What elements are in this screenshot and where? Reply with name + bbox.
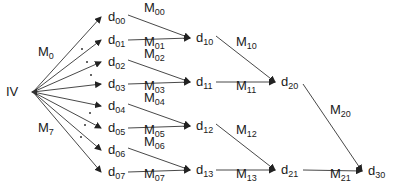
edge-label-m06: M06 — [144, 135, 165, 151]
ellipsis-dot — [89, 112, 91, 114]
node-d00: d00 — [108, 10, 125, 26]
node-d07: d07 — [108, 165, 125, 181]
edge-label-m06-base: M — [144, 134, 155, 149]
node-d11: d11 — [196, 75, 213, 91]
node-d20: d20 — [281, 75, 298, 91]
ellipsis-dot — [81, 48, 83, 50]
node-d12: d12 — [196, 119, 213, 135]
node-d13: d13 — [196, 163, 213, 179]
edge-label-m0-base: M — [38, 44, 49, 59]
edge-label-m02-subscript: 02 — [155, 53, 165, 63]
tree-diagram: IVd00d01d02d03d04d05d06d07d10d11d12d13d2… — [0, 0, 398, 194]
edge-label-m10: M10 — [236, 35, 257, 51]
edge-label-m06-subscript: 06 — [155, 141, 165, 151]
node-d30: d30 — [368, 164, 385, 180]
node-d02: d02 — [108, 55, 125, 71]
edge-label-m11-subscript: 11 — [247, 85, 256, 95]
edge-label-m04-base: M — [144, 90, 155, 105]
node-d21-subscript: 21 — [288, 169, 298, 179]
node-d04: d04 — [108, 99, 125, 115]
edge-label-m21-base: M — [330, 166, 341, 181]
ellipsis-dot — [90, 74, 92, 76]
node-d10-subscript: 10 — [203, 37, 213, 47]
edge-label-m13-subscript: 13 — [247, 173, 257, 183]
edge-label-m11-base: M — [236, 78, 247, 93]
node-d03: d03 — [108, 77, 125, 93]
edge-label-m20-base: M — [330, 102, 341, 117]
edge-label-m00-base: M — [144, 0, 155, 15]
edge-label-m10-base: M — [236, 34, 247, 49]
node-d21: d21 — [281, 163, 298, 179]
edge-label-m11: M11 — [236, 79, 256, 95]
ellipsis-dot — [80, 136, 82, 138]
edge-label-m00: M00 — [144, 1, 165, 17]
source-node-iv: IV — [6, 85, 18, 98]
edge-label-m07-subscript: 07 — [155, 173, 165, 183]
ellipsis-dot — [86, 61, 88, 63]
node-d06: d06 — [108, 143, 125, 159]
edge-label-m20-subscript: 20 — [341, 109, 351, 119]
node-d00-subscript: 00 — [115, 16, 125, 26]
edge-label-m12-base: M — [236, 122, 247, 137]
edge-label-m07-base: M — [144, 166, 155, 181]
edge-d20-to-d30 — [303, 84, 362, 171]
edge-label-m13: M13 — [236, 167, 257, 183]
edge-label-m7-subscript: 7 — [49, 127, 54, 137]
edge-label-m10-subscript: 10 — [247, 41, 257, 51]
node-d13-subscript: 13 — [203, 169, 213, 179]
node-d30-subscript: 30 — [375, 170, 385, 180]
edge-label-m7: M7 — [38, 121, 54, 137]
edge-label-m20: M20 — [330, 103, 351, 119]
edge-label-m13-base: M — [236, 166, 247, 181]
node-d07-subscript: 07 — [115, 171, 125, 181]
edge-label-m12-subscript: 12 — [247, 129, 257, 139]
node-d20-subscript: 20 — [288, 81, 298, 91]
node-d11-subscript: 11 — [203, 81, 212, 91]
node-d01: d01 — [108, 33, 125, 49]
node-d12-subscript: 12 — [203, 125, 213, 135]
node-d10: d10 — [196, 31, 213, 47]
edge-label-m07: M07 — [144, 167, 165, 183]
node-d01-subscript: 01 — [115, 39, 125, 49]
edge-label-m02-base: M — [144, 46, 155, 61]
node-d05: d05 — [108, 121, 125, 137]
edge-label-m12: M12 — [236, 123, 257, 139]
edge-label-m04: M04 — [144, 91, 165, 107]
edge-label-m21-subscript: 21 — [341, 173, 351, 183]
edge-label-m0-subscript: 0 — [49, 51, 54, 61]
edge-iv-to-d03 — [33, 84, 101, 92]
edge-label-m00-subscript: 00 — [155, 7, 165, 17]
ellipsis-dot — [84, 124, 86, 126]
edge-label-m21: M21 — [330, 167, 351, 183]
node-d05-subscript: 05 — [115, 127, 125, 137]
edge-label-m7-base: M — [38, 120, 49, 135]
node-d02-subscript: 02 — [115, 61, 125, 71]
edge-label-m02: M02 — [144, 47, 165, 63]
edge-label-m04-subscript: 04 — [155, 97, 165, 107]
edge-label-m0: M0 — [38, 45, 54, 61]
node-d06-subscript: 06 — [115, 149, 125, 159]
node-d03-subscript: 03 — [115, 83, 125, 93]
node-d04-subscript: 04 — [115, 105, 125, 115]
